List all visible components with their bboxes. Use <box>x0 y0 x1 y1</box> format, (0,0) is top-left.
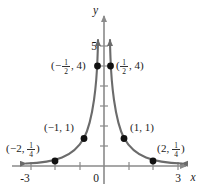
figure-background <box>0 0 204 190</box>
y-tick-label-5: 5 <box>91 40 97 52</box>
origin-label: 0 <box>93 172 99 184</box>
label-neg-half-four-denominator: 2 <box>64 67 68 76</box>
label-pos-half-four-rest: , 4) <box>129 59 144 72</box>
label-neg-two-quarter-lead: −2, <box>10 142 25 154</box>
point-pos-one-one <box>121 135 128 142</box>
label-pos-one-one: (1, 1) <box>130 121 154 134</box>
label-pos-half-four-denominator: 2 <box>122 67 126 76</box>
label-neg-one-one: (−1, 1) <box>44 121 74 134</box>
label-neg-half-four-numerator: 1 <box>64 58 68 67</box>
label-pos-two-quarter-close: ) <box>181 142 185 155</box>
label-neg-two-quarter-numerator: 1 <box>29 141 33 150</box>
point-pos-half-four <box>107 63 114 70</box>
label-pos-two-quarter-lead: 2, <box>161 142 170 154</box>
label-pos-half-four-numerator: 1 <box>122 58 126 67</box>
label-pos-two-quarter-denominator: 4 <box>174 150 178 159</box>
graph-figure: -3 0 3 5 y x ( <box>0 0 204 190</box>
y-axis-label: y <box>92 4 99 17</box>
label-neg-two-quarter-denominator: 4 <box>29 150 33 159</box>
label-pos-half-four-open: ( <box>116 59 120 72</box>
x-axis-label: x <box>189 171 196 183</box>
point-neg-half-four <box>94 63 101 70</box>
label-neg-half-four-minus: − <box>55 59 61 71</box>
label-pos-two-quarter-numerator: 1 <box>174 141 178 150</box>
label-neg-two-quarter-close: ) <box>36 142 40 155</box>
point-pos-two-quarter <box>150 158 157 165</box>
point-neg-one-one <box>81 135 88 142</box>
x-tick-label--3: -3 <box>20 172 30 184</box>
coordinate-plane-svg: -3 0 3 5 y x ( <box>0 0 204 190</box>
point-neg-two-quarter <box>52 158 59 165</box>
x-tick-label-3: 3 <box>175 172 181 184</box>
label-neg-half-four-rest: , 4) <box>71 59 86 72</box>
